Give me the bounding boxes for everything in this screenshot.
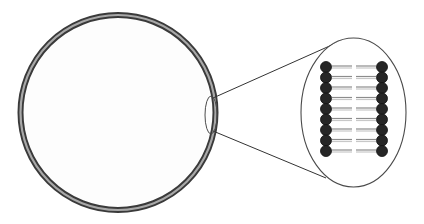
phospholipid-head	[321, 104, 332, 115]
phospholipid-head	[321, 146, 332, 157]
cell	[21, 15, 216, 210]
phospholipid-head	[321, 93, 332, 104]
phospholipid-head	[321, 83, 332, 94]
phospholipid-head	[377, 146, 388, 157]
phospholipid-head	[377, 62, 388, 73]
phospholipid-head	[377, 125, 388, 136]
phospholipid-head	[321, 125, 332, 136]
phospholipid-head	[321, 72, 332, 83]
phospholipid-head	[377, 83, 388, 94]
phospholipid-head	[377, 135, 388, 146]
phospholipid-head	[321, 62, 332, 73]
diagram-canvas	[0, 0, 424, 224]
phospholipid-head	[377, 104, 388, 115]
magnified-view	[301, 38, 406, 187]
phospholipid-head	[377, 93, 388, 104]
phospholipid-head	[321, 135, 332, 146]
phospholipid-head	[377, 72, 388, 83]
phospholipid-head	[377, 114, 388, 125]
phospholipid-head	[321, 114, 332, 125]
membrane-diagram	[0, 0, 424, 224]
